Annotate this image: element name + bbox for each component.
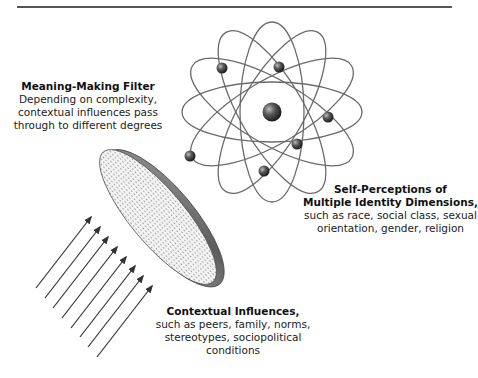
self-perceptions-desc-line: such as race, social class, sexual (303, 209, 478, 222)
self-perceptions-label: Self-Perceptions of Multiple Identity Di… (303, 183, 478, 235)
influence-arrows-icon (36, 217, 152, 357)
electron-icon (185, 151, 196, 162)
contextual-influences-desc-line: stereotypes, sociopolitical (138, 331, 328, 344)
contextual-influences-label: Contextual Influences, such as peers, fa… (138, 305, 328, 357)
contextual-influences-title: Contextual Influences, (138, 305, 328, 318)
contextual-influences-desc-line: such as peers, family, norms, (138, 318, 328, 331)
electron-icon (323, 112, 334, 123)
nucleus-icon (263, 103, 282, 122)
electron-icon (292, 139, 303, 150)
electron-icon (259, 166, 270, 177)
filter-desc-line: Depending on complexity, (8, 93, 168, 106)
electron-icon (274, 62, 285, 73)
electron-icon (217, 63, 228, 74)
self-perceptions-title: Multiple Identity Dimensions, (303, 196, 478, 209)
self-perceptions-title: Self-Perceptions of (303, 183, 478, 196)
self-perceptions-desc-line: orientation, gender, religion (303, 222, 478, 235)
filter-disc-icon (83, 130, 243, 304)
filter-title: Meaning-Making Filter (8, 80, 168, 93)
filter-desc-line: through to different degrees (8, 119, 168, 132)
filter-desc-line: contextual influences pass (8, 106, 168, 119)
filter-label: Meaning-Making Filter Depending on compl… (8, 80, 168, 132)
contextual-influences-desc-line: conditions (138, 344, 328, 357)
